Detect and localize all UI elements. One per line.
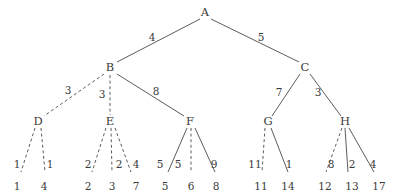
tree-leaf-l5: 7 <box>133 181 140 192</box>
tree-edge-b-f <box>117 74 184 116</box>
tree-leaf-l10: 14 <box>281 181 294 192</box>
edge-weight-f-l8: 9 <box>211 159 218 170</box>
tree-node-h: H <box>340 116 350 128</box>
edge-weight-h-l12: 2 <box>349 159 356 170</box>
tree-leaf-l4: 3 <box>109 181 116 192</box>
edge-weight-f-l6: 5 <box>157 159 164 170</box>
edge-weight-c-g: 7 <box>276 87 283 98</box>
edge-weight-c-h: 3 <box>315 87 322 98</box>
tree-node-c: C <box>301 62 310 74</box>
edge-weight-d-l1: 1 <box>14 159 21 170</box>
edge-weight-e-l5: 4 <box>133 159 140 170</box>
tree-edge-a-c <box>211 19 299 62</box>
tree-edge-d-l2 <box>41 128 45 172</box>
tree-edge-e-l4 <box>111 128 112 172</box>
tree-leaf-l1: 1 <box>14 181 21 192</box>
tree-leaf-l9: 11 <box>254 181 267 192</box>
tree-node-g: G <box>263 116 272 128</box>
edge-weight-e-l3: 2 <box>85 159 92 170</box>
tree-node-e: E <box>106 116 114 128</box>
edge-weight-g-l10: 1 <box>286 159 293 170</box>
tree-leaf-l8: 8 <box>213 181 220 192</box>
tree-edge-h-l12 <box>345 128 348 172</box>
tree-leaf-l7: 6 <box>188 181 195 192</box>
tree-node-a: A <box>201 7 209 19</box>
tree-node-b: B <box>106 62 114 74</box>
tree-leaf-l3: 2 <box>85 181 92 192</box>
edge-weight-g-l9: 11 <box>248 159 261 170</box>
tree-leaf-l2: 4 <box>41 181 48 192</box>
edge-weight-a-b: 4 <box>149 32 156 43</box>
edge-weight-d-l2: 1 <box>47 159 54 170</box>
weighted-tree-diagram: 453387311224559111824ABCDEFGH14237568111… <box>0 0 393 194</box>
tree-node-f: F <box>186 116 194 128</box>
tree-edge-a-b <box>117 19 200 62</box>
edge-weight-h-l11: 8 <box>328 159 335 170</box>
tree-leaf-l6: 5 <box>162 181 169 192</box>
tree-leaf-l12: 13 <box>345 181 358 192</box>
edge-weight-b-f: 8 <box>153 86 160 97</box>
edge-weight-e-l4: 2 <box>116 159 123 170</box>
tree-leaf-l11: 12 <box>318 181 331 192</box>
edge-weight-b-e: 3 <box>99 89 106 100</box>
tree-edge-b-d <box>44 74 104 116</box>
tree-leaf-l13: 17 <box>372 181 385 192</box>
tree-edge-d-l1 <box>21 128 35 172</box>
tree-edge-e-l3 <box>92 128 106 172</box>
edge-weight-h-l13: 4 <box>370 159 377 170</box>
edge-weight-f-l7: 5 <box>175 159 182 170</box>
edge-weight-a-c: 5 <box>258 32 265 43</box>
tree-node-d: D <box>33 116 42 128</box>
tree-edge-g-l9 <box>262 128 265 172</box>
edge-weight-b-d: 3 <box>65 85 72 96</box>
